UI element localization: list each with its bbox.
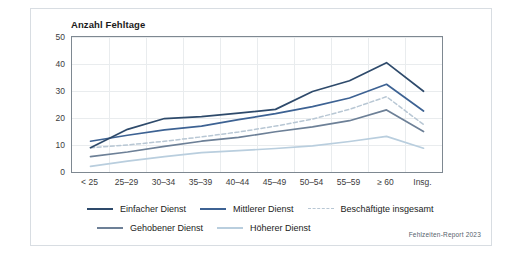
chart-figure: Anzahl Fehltage 01020304050 < 2525–2930–… — [30, 8, 492, 246]
legend-swatch-icon — [308, 208, 334, 209]
x-tick-label-1: 25–29 — [115, 177, 139, 187]
x-tick-label-8: ≥ 60 — [377, 177, 393, 187]
y-tick-label-50: 50 — [39, 32, 65, 42]
chart-title: Anzahl Fehltage — [71, 19, 145, 30]
y-tick-label-30: 30 — [39, 86, 65, 96]
x-tick-label-7: 55–59 — [337, 177, 361, 187]
legend-row-1: Einfacher DienstMittlerer DienstBeschäft… — [87, 199, 467, 218]
x-tick-label-2: 30–34 — [152, 177, 176, 187]
legend-item-einfacher-dienst[interactable]: Einfacher Dienst — [87, 204, 186, 214]
legend-swatch-icon — [97, 227, 123, 229]
y-tick-label-10: 10 — [39, 140, 65, 150]
legend-item-mittlerer-dienst[interactable]: Mittlerer Dienst — [200, 204, 294, 214]
x-tick-label-0: < 25 — [81, 177, 98, 187]
y-tick-label-40: 40 — [39, 59, 65, 69]
x-tick-label-4: 40–44 — [226, 177, 250, 187]
x-axis: < 2525–2930–3435–3940–4445–4950–5455–59≥… — [71, 177, 443, 191]
legend-item-h-herer-dienst[interactable]: Höherer Dienst — [217, 223, 311, 233]
legend-label: Mittlerer Dienst — [233, 204, 294, 214]
series-line-h-herer-dienst — [91, 136, 424, 166]
chart-legend: Einfacher DienstMittlerer DienstBeschäft… — [67, 199, 467, 237]
legend-label: Gehobener Dienst — [130, 223, 203, 233]
legend-swatch-icon — [217, 227, 243, 229]
series-line-mittlerer-dienst — [91, 84, 424, 141]
y-tick-label-20: 20 — [39, 113, 65, 123]
source-credit: Fehlzeiten-Report 2023 — [409, 231, 481, 238]
legend-item-besch-ftigte-insgesamt[interactable]: Beschäftigte insgesamt — [308, 204, 434, 214]
x-tick-label-5: 45–49 — [263, 177, 287, 187]
legend-label: Beschäftigte insgesamt — [341, 204, 434, 214]
legend-label: Höherer Dienst — [250, 223, 311, 233]
legend-item-gehobener-dienst[interactable]: Gehobener Dienst — [97, 223, 203, 233]
x-tick-label-3: 35–39 — [189, 177, 213, 187]
y-tick-label-0: 0 — [39, 167, 65, 177]
plot-area — [71, 36, 443, 173]
x-tick-label-6: 50–54 — [300, 177, 324, 187]
series-lines — [72, 37, 442, 172]
legend-swatch-icon — [200, 208, 226, 210]
legend-label: Einfacher Dienst — [120, 204, 186, 214]
legend-swatch-icon — [87, 208, 113, 210]
series-line-besch-ftigte-insgesamt — [91, 97, 424, 148]
x-tick-label-9: Insg. — [413, 177, 431, 187]
y-axis: 01020304050 — [39, 36, 67, 173]
